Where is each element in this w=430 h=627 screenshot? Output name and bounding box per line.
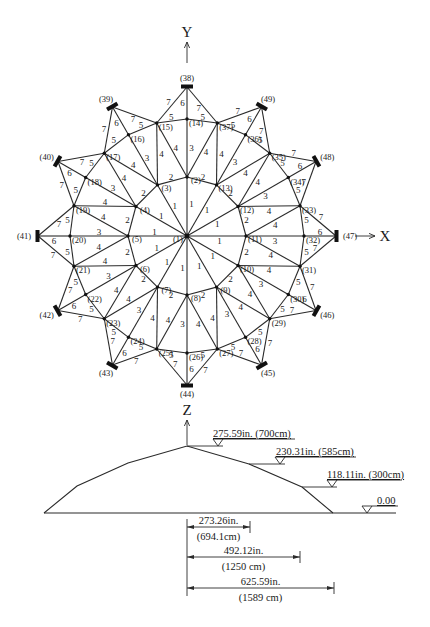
arrowhead-icon <box>187 586 194 590</box>
member-type-label: 4 <box>103 197 108 207</box>
member-type-label: 5 <box>258 327 263 337</box>
node-label: (11) <box>248 234 262 244</box>
member-type-label: 3 <box>180 319 185 329</box>
member-type-label: 7 <box>131 114 136 124</box>
member-type-label: 6 <box>52 236 57 246</box>
y-axis-label: Y <box>182 24 193 40</box>
node-label: (4) <box>140 205 150 215</box>
member-type-label: 4 <box>204 147 209 157</box>
member-type-label: 4 <box>273 220 278 230</box>
node-label: (39) <box>99 94 113 104</box>
member-type-label: 5 <box>65 215 70 225</box>
member-type-label: 1 <box>154 243 159 253</box>
node-label: (7) <box>162 285 172 295</box>
member-type-2 <box>136 185 158 207</box>
member-type-label: 7 <box>134 356 139 366</box>
dome-structure-drawing: 1234467712344677123446771234467712344677… <box>0 0 430 627</box>
node-6 <box>134 264 137 267</box>
member-type-label: 1 <box>215 219 220 229</box>
member-type-label: 6 <box>247 114 252 124</box>
dimension-cm: (1250 cm) <box>222 561 266 573</box>
member-type-3 <box>217 135 246 185</box>
member-type-5 <box>270 295 289 319</box>
member-type-label: 7 <box>319 212 324 222</box>
member-type-label: 1 <box>165 257 170 267</box>
member-type-label: 4 <box>174 143 179 153</box>
member-type-label: 7 <box>173 359 178 369</box>
member-type-label: 4 <box>256 177 261 187</box>
node-8 <box>185 293 188 296</box>
node-label: (46) <box>320 310 334 320</box>
member-type-label: 2 <box>141 188 146 198</box>
node-label: (37) <box>219 122 233 132</box>
member-type-label: 4 <box>150 313 155 323</box>
member-type-label: 7 <box>268 338 273 348</box>
node-label: (28) <box>247 336 261 346</box>
member-type-label: 7 <box>310 282 315 292</box>
member-type-label: 4 <box>159 149 164 159</box>
arrowhead-icon <box>293 555 300 559</box>
member-type-label: 3 <box>111 183 116 193</box>
node-label: (25) <box>159 348 173 358</box>
member-type-label: 3 <box>189 143 194 153</box>
member-type-4 <box>157 123 158 185</box>
node-4 <box>134 205 137 208</box>
node-label: (26) <box>189 352 203 362</box>
node-label: (22) <box>88 294 102 304</box>
node-label: (8) <box>191 293 201 303</box>
node-label: (44) <box>180 389 194 399</box>
node-label: (17) <box>106 152 120 162</box>
member-type-label: 2 <box>125 247 130 257</box>
member-type-4 <box>157 287 158 349</box>
member-type-label: 6 <box>67 168 72 178</box>
member-type-label: 3 <box>106 271 111 281</box>
member-type-5 <box>104 135 128 154</box>
member-type-label: 1 <box>217 236 222 246</box>
member-type-label: 7 <box>290 305 295 315</box>
member-type-label: 3 <box>259 279 264 289</box>
node-label: (49) <box>261 94 275 104</box>
dimension-inches: 273.26in. <box>199 515 239 526</box>
member-type-label: 2 <box>228 274 233 284</box>
node-label: (43) <box>99 368 113 378</box>
member-type-label: 5 <box>111 135 116 145</box>
member-type-label: 2 <box>201 290 206 300</box>
member-type-label: 7 <box>59 180 64 190</box>
node-label: (34) <box>290 177 304 187</box>
member-type-label: 6 <box>114 118 119 128</box>
member-type-label: 2 <box>244 215 249 225</box>
member-type-label: 6 <box>180 98 185 108</box>
dimension-cm: (694.1cm) <box>197 531 241 543</box>
member-type-label: 7 <box>78 314 83 324</box>
member-type-label: 7 <box>236 106 241 116</box>
node-label: (36) <box>247 134 261 144</box>
node-label: (10) <box>240 264 254 274</box>
member-type-label: 3 <box>225 309 230 319</box>
node-5 <box>126 234 129 237</box>
elevation-marker-icon <box>362 506 372 513</box>
member-type-label: 6 <box>189 364 194 374</box>
arrowhead-icon <box>243 525 250 529</box>
axes-layer: YXZ <box>182 24 391 445</box>
member-type-label: 5 <box>73 185 78 195</box>
node-1 <box>185 234 190 239</box>
node-label: (12) <box>240 205 254 215</box>
member-type-label: 1 <box>152 227 157 237</box>
member-type-label: 2 <box>201 172 206 182</box>
member-type-label: 7 <box>203 365 208 375</box>
member-type-4 <box>217 287 218 349</box>
member-type-label: 5 <box>280 304 285 314</box>
member-type-label: 4 <box>248 289 253 299</box>
node-label: (3) <box>162 183 172 193</box>
node-label: (23) <box>106 318 120 328</box>
node-label: (2) <box>191 175 201 185</box>
member-type-label: 7 <box>51 250 56 260</box>
member-type-label: 5 <box>304 215 309 225</box>
member-type-5 <box>70 206 74 236</box>
member-type-label: 5 <box>111 327 116 337</box>
member-type-label: 4 <box>239 302 244 312</box>
node-label: (19) <box>76 205 90 215</box>
member-type-label: 3 <box>97 227 102 237</box>
node-label: (14) <box>189 118 203 128</box>
node-9 <box>215 285 218 288</box>
